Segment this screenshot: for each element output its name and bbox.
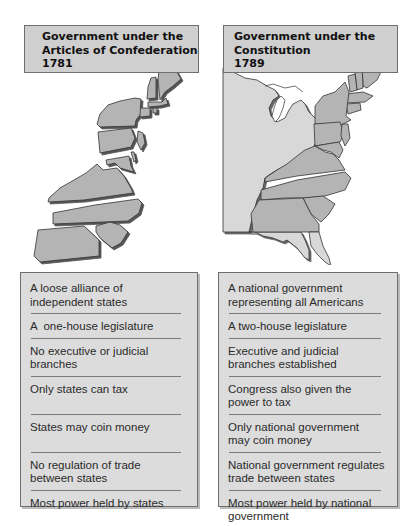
list-item: A national government representing all A… <box>219 279 397 317</box>
list-item: States may coin money <box>21 418 197 456</box>
title-constitution: Government under the Constitution 1789 <box>223 25 398 73</box>
divider <box>229 376 381 377</box>
list-item: No executive or judicial branches <box>21 342 197 380</box>
state-north-carolina <box>53 199 142 224</box>
divider <box>31 313 181 314</box>
divider <box>31 338 181 339</box>
state-pennsylvania <box>98 128 135 153</box>
divider <box>31 376 181 377</box>
title-line: Articles of Confederation <box>42 44 198 58</box>
list-item: Most power held by states <box>21 494 197 514</box>
divider <box>31 490 181 491</box>
state-new-york <box>97 98 141 127</box>
divider <box>229 414 381 415</box>
florida-territory <box>309 232 331 265</box>
state-massachusetts <box>346 92 373 103</box>
articles-characteristics-list: A loose alliance of independent states A… <box>20 272 198 507</box>
title-line: Government under the <box>234 30 397 44</box>
state-georgia <box>34 226 99 262</box>
state-new-york <box>315 82 351 126</box>
divider <box>229 452 381 453</box>
list-item: Most power held by national government <box>219 494 397 526</box>
list-item: No regulation of trade between states <box>21 456 197 494</box>
divider <box>229 490 381 491</box>
list-item: Only national government may coin money <box>219 418 397 456</box>
title-year: 1781 <box>42 57 198 71</box>
list-item: Executive and judicial branches establis… <box>219 342 397 380</box>
list-item: A one-house legislature <box>21 317 197 342</box>
divider <box>31 452 181 453</box>
title-line: Constitution <box>234 44 397 58</box>
list-item: A two-house legislature <box>219 317 397 342</box>
lake-michigan <box>272 96 285 122</box>
divider <box>31 414 181 415</box>
state-virginia <box>48 164 133 202</box>
list-item: A loose alliance of independent states <box>21 279 197 317</box>
state-south-carolina <box>96 222 128 248</box>
state-rhode-island <box>153 108 157 113</box>
constitution-characteristics-list: A national government representing all A… <box>218 272 398 507</box>
state-new-jersey <box>341 124 350 146</box>
title-year: 1789 <box>234 57 397 71</box>
divider <box>229 338 381 339</box>
list-item: Congress also given the power to tax <box>219 380 397 418</box>
title-articles-of-confederation: Government under the Articles of Confede… <box>24 25 199 73</box>
state-delaware <box>131 152 136 162</box>
state-new-jersey <box>137 131 145 150</box>
state-vermont <box>348 74 357 92</box>
state-connecticut <box>346 103 361 114</box>
list-item: National government regulates trade betw… <box>219 456 397 494</box>
list-item: Only states can tax <box>21 380 197 418</box>
state-massachusetts <box>148 98 168 107</box>
divider <box>229 313 381 314</box>
title-line: Government under the <box>42 30 198 44</box>
state-new-hampshire <box>147 77 156 99</box>
